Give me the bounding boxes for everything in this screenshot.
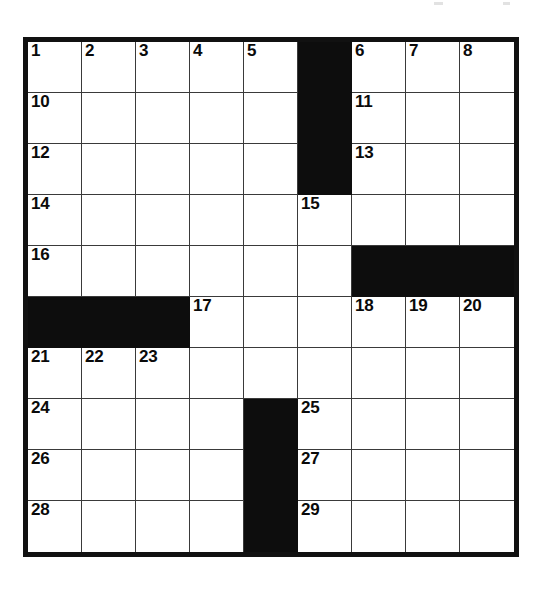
crossword-cell[interactable] <box>82 144 136 195</box>
crossword-cell[interactable] <box>190 144 244 195</box>
crossword-cell[interactable] <box>352 450 406 501</box>
cell-number: 6 <box>355 42 364 60</box>
crossword-cell[interactable] <box>460 195 514 246</box>
crossword-cell[interactable] <box>82 195 136 246</box>
crossword-cell[interactable] <box>406 399 460 450</box>
cell-number: 8 <box>463 42 472 60</box>
crossword-cell[interactable] <box>190 501 244 552</box>
crossword-cell[interactable] <box>406 348 460 399</box>
crossword-cell[interactable]: 7 <box>406 42 460 93</box>
crossword-cell[interactable] <box>406 93 460 144</box>
crossword-cell[interactable]: 28 <box>28 501 82 552</box>
cell-number: 18 <box>355 297 373 315</box>
cell-number: 12 <box>31 144 49 162</box>
crossword-cell[interactable]: 23 <box>136 348 190 399</box>
crossword-cell[interactable] <box>460 399 514 450</box>
crossword-cell[interactable] <box>352 195 406 246</box>
crossword-cell[interactable]: 6 <box>352 42 406 93</box>
cell-number: 14 <box>31 195 49 213</box>
cell-number: 26 <box>31 450 49 468</box>
crossword-cell[interactable]: 1 <box>28 42 82 93</box>
crossword-block-cell <box>244 450 298 501</box>
crossword-cell[interactable]: 25 <box>298 399 352 450</box>
crossword-block-cell <box>406 246 460 297</box>
crossword-cell[interactable] <box>460 450 514 501</box>
crossword-cell[interactable] <box>352 501 406 552</box>
crossword-cell[interactable]: 8 <box>460 42 514 93</box>
crossword-cell[interactable]: 2 <box>82 42 136 93</box>
crossword-cell[interactable] <box>82 246 136 297</box>
cell-number: 20 <box>463 297 481 315</box>
crossword-cell[interactable] <box>190 93 244 144</box>
crossword-cell[interactable] <box>82 501 136 552</box>
crossword-cell[interactable] <box>352 348 406 399</box>
crossword-cell[interactable] <box>460 348 514 399</box>
crossword-cell[interactable] <box>190 246 244 297</box>
crossword-cell[interactable]: 26 <box>28 450 82 501</box>
crossword-cell[interactable] <box>190 195 244 246</box>
crossword-cell[interactable] <box>298 246 352 297</box>
cell-number: 3 <box>139 42 148 60</box>
cell-number: 13 <box>355 144 373 162</box>
cell-number: 27 <box>301 450 319 468</box>
crossword-cell[interactable] <box>82 93 136 144</box>
crossword-cell[interactable] <box>190 348 244 399</box>
crossword-cell[interactable] <box>244 246 298 297</box>
crossword-cell[interactable] <box>244 93 298 144</box>
cell-number: 16 <box>31 246 49 264</box>
crossword-cell[interactable]: 12 <box>28 144 82 195</box>
crossword-cell[interactable]: 14 <box>28 195 82 246</box>
crossword-cell[interactable] <box>136 93 190 144</box>
crossword-cell[interactable] <box>136 450 190 501</box>
crossword-cell[interactable]: 21 <box>28 348 82 399</box>
crossword-cell[interactable] <box>82 450 136 501</box>
crossword-cell[interactable]: 17 <box>190 297 244 348</box>
crossword-cell[interactable] <box>460 93 514 144</box>
crossword-block-cell <box>244 501 298 552</box>
crossword-block-cell <box>28 297 82 348</box>
crossword-cell[interactable] <box>406 501 460 552</box>
crossword-grid: 1234567810111213141516171819202122232425… <box>28 42 514 552</box>
crossword-cell[interactable]: 18 <box>352 297 406 348</box>
crossword-cell[interactable] <box>244 144 298 195</box>
crossword-cell[interactable]: 16 <box>28 246 82 297</box>
cell-number: 7 <box>409 42 418 60</box>
crossword-cell[interactable]: 13 <box>352 144 406 195</box>
crossword-cell[interactable] <box>460 144 514 195</box>
crossword-cell[interactable]: 5 <box>244 42 298 93</box>
crossword-cell[interactable] <box>406 144 460 195</box>
crossword-block-cell <box>82 297 136 348</box>
crossword-block-cell <box>244 399 298 450</box>
crossword-cell[interactable]: 27 <box>298 450 352 501</box>
crossword-cell[interactable] <box>136 144 190 195</box>
crossword-cell[interactable] <box>136 501 190 552</box>
crossword-cell[interactable]: 22 <box>82 348 136 399</box>
crossword-cell[interactable]: 20 <box>460 297 514 348</box>
crossword-cell[interactable]: 19 <box>406 297 460 348</box>
scan-artifact-speck <box>503 2 510 5</box>
crossword-cell[interactable] <box>406 195 460 246</box>
crossword-cell[interactable] <box>136 246 190 297</box>
crossword-cell[interactable] <box>136 399 190 450</box>
crossword-cell[interactable] <box>244 195 298 246</box>
crossword-cell[interactable] <box>298 297 352 348</box>
cell-number: 29 <box>301 501 319 519</box>
crossword-cell[interactable]: 24 <box>28 399 82 450</box>
crossword-cell[interactable] <box>136 195 190 246</box>
crossword-cell[interactable] <box>190 450 244 501</box>
crossword-cell[interactable] <box>352 399 406 450</box>
crossword-cell[interactable] <box>190 399 244 450</box>
crossword-cell[interactable] <box>82 399 136 450</box>
crossword-cell[interactable]: 11 <box>352 93 406 144</box>
crossword-cell[interactable]: 3 <box>136 42 190 93</box>
crossword-cell[interactable] <box>244 297 298 348</box>
crossword-cell[interactable]: 29 <box>298 501 352 552</box>
crossword-cell[interactable]: 4 <box>190 42 244 93</box>
crossword-cell[interactable] <box>244 348 298 399</box>
crossword-cell[interactable] <box>298 348 352 399</box>
crossword-cell[interactable]: 15 <box>298 195 352 246</box>
crossword-cell[interactable]: 10 <box>28 93 82 144</box>
crossword-grid-container: 1234567810111213141516171819202122232425… <box>23 37 519 557</box>
crossword-cell[interactable] <box>460 501 514 552</box>
crossword-cell[interactable] <box>406 450 460 501</box>
